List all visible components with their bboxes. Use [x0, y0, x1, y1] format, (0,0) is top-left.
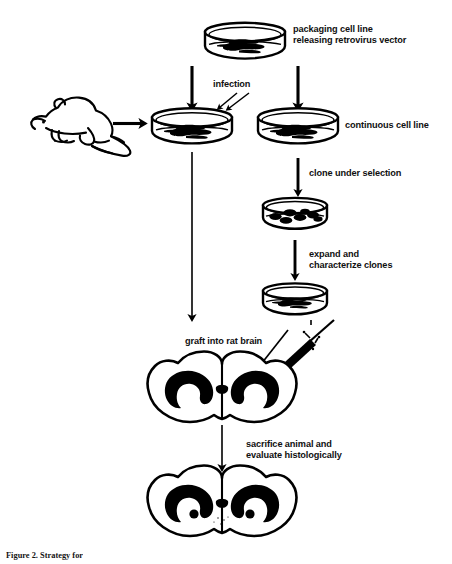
- rat-illustration: [31, 97, 130, 155]
- figure-caption: Figure 2. Strategy for: [6, 551, 83, 564]
- petri-dish-primary: [152, 108, 232, 143]
- label-clone-under-selection: clone under selection: [309, 168, 401, 180]
- petri-dish-clones: [263, 198, 327, 229]
- label-sacrifice-animal: sacrifice animal and: [246, 439, 332, 451]
- label-releasing-retrovirus-vector: releasing retrovirus vector: [293, 35, 406, 47]
- label-expand: expand and: [309, 249, 359, 261]
- label-characterize-clones: characterize clones: [309, 260, 392, 272]
- petri-dish-continuous: [258, 108, 338, 143]
- arrow-infection-pointers: [219, 93, 249, 109]
- petri-dish-expanded: [263, 283, 327, 314]
- label-evaluate-histologically: evaluate histologically: [246, 450, 342, 462]
- label-continuous-cell-line: continuous cell line: [345, 120, 429, 132]
- petri-dish-packaging: [205, 23, 285, 59]
- label-packaging-cell-line: packaging cell line: [293, 24, 373, 36]
- brain-section-histology: [148, 466, 297, 537]
- label-graft-into-rat-brain: graft into rat brain: [185, 336, 262, 348]
- label-infection: infection: [213, 79, 250, 91]
- figure-diagram: packaging cell line releasing retrovirus…: [0, 0, 452, 564]
- brain-section-graft: [148, 352, 297, 423]
